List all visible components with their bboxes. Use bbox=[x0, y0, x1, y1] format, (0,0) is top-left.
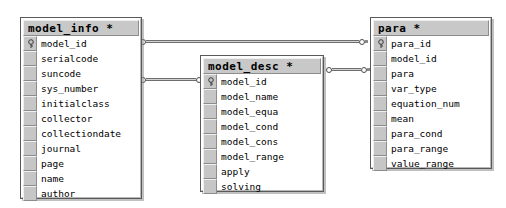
field-row[interactable]: model_cond bbox=[203, 119, 321, 134]
field-label: para_id bbox=[387, 36, 489, 51]
field-label: model_equa bbox=[217, 104, 321, 119]
table-frame-inner: para * para_id model_id bbox=[371, 18, 491, 168]
field-gutter bbox=[23, 51, 37, 66]
field-label: var_type bbox=[387, 81, 489, 96]
field-row[interactable]: sys_number bbox=[23, 81, 139, 96]
field-row[interactable]: collectiondate bbox=[23, 126, 139, 141]
key-icon-glyph bbox=[377, 39, 385, 49]
field-list-model-desc: model_id model_name model_equa model_con… bbox=[203, 74, 321, 194]
field-list-para: para_id model_id para var_type equation_… bbox=[373, 36, 489, 171]
table-title-model-info: model_info * bbox=[23, 20, 139, 36]
field-row[interactable]: model_name bbox=[203, 89, 321, 104]
relationship-line-model-info-model-desc[interactable] bbox=[140, 76, 202, 83]
table-frame-inner: model_info * model_id serialcode bbox=[21, 18, 141, 198]
relationship-line-model-desc-para[interactable] bbox=[326, 66, 370, 73]
field-row[interactable]: model_id bbox=[373, 51, 489, 66]
field-gutter bbox=[23, 141, 37, 156]
field-gutter bbox=[373, 126, 387, 141]
field-label: author bbox=[37, 186, 139, 201]
field-label: collector bbox=[37, 111, 139, 126]
relationship-line-model-info-para[interactable] bbox=[140, 38, 368, 45]
field-row[interactable]: suncode bbox=[23, 66, 139, 81]
field-label: collectiondate bbox=[37, 126, 139, 141]
field-row[interactable]: journal bbox=[23, 141, 139, 156]
field-gutter bbox=[203, 89, 217, 104]
field-label: initialclass bbox=[37, 96, 139, 111]
field-label: mean bbox=[387, 111, 489, 126]
field-gutter bbox=[203, 164, 217, 179]
er-diagram-canvas: model_info * model_id serialcode bbox=[0, 0, 506, 208]
key-icon-glyph bbox=[207, 77, 215, 87]
field-row[interactable]: initialclass bbox=[23, 96, 139, 111]
field-gutter bbox=[203, 149, 217, 164]
field-row[interactable]: equation_num bbox=[373, 96, 489, 111]
field-label: model_cons bbox=[217, 134, 321, 149]
field-row[interactable]: para bbox=[373, 66, 489, 81]
field-gutter bbox=[203, 134, 217, 149]
table-model-desc[interactable]: model_desc * model_id model_name bbox=[200, 55, 324, 192]
field-row[interactable]: collector bbox=[23, 111, 139, 126]
field-row[interactable]: apply bbox=[203, 164, 321, 179]
table-frame-inner: model_desc * model_id model_name bbox=[201, 56, 323, 191]
field-row[interactable]: model_id bbox=[23, 36, 139, 51]
field-label: para_range bbox=[387, 141, 489, 156]
field-gutter bbox=[23, 96, 37, 111]
field-row[interactable]: model_range bbox=[203, 149, 321, 164]
field-label: para_cond bbox=[387, 126, 489, 141]
field-row[interactable]: model_cons bbox=[203, 134, 321, 149]
primary-key-icon bbox=[373, 36, 387, 51]
field-label: model_id bbox=[217, 74, 321, 89]
field-gutter bbox=[23, 111, 37, 126]
field-gutter bbox=[23, 186, 37, 201]
primary-key-icon bbox=[23, 36, 37, 51]
field-label: page bbox=[37, 156, 139, 171]
table-para[interactable]: para * para_id model_id bbox=[370, 17, 492, 169]
field-gutter bbox=[23, 126, 37, 141]
field-gutter bbox=[373, 111, 387, 126]
field-label: suncode bbox=[37, 66, 139, 81]
field-label: sys_number bbox=[37, 81, 139, 96]
field-gutter bbox=[23, 66, 37, 81]
field-row[interactable]: page bbox=[23, 156, 139, 171]
field-row[interactable]: var_type bbox=[373, 81, 489, 96]
field-gutter bbox=[203, 119, 217, 134]
field-label: model_range bbox=[217, 149, 321, 164]
field-gutter bbox=[373, 141, 387, 156]
field-label: model_id bbox=[37, 36, 139, 51]
field-label: model_cond bbox=[217, 119, 321, 134]
table-title-model-desc: model_desc * bbox=[203, 58, 321, 74]
field-gutter bbox=[23, 171, 37, 186]
field-label: serialcode bbox=[37, 51, 139, 66]
field-gutter bbox=[373, 156, 387, 171]
field-row[interactable]: solving bbox=[203, 179, 321, 194]
relationship-line-segment bbox=[146, 40, 359, 43]
field-row[interactable]: value_range bbox=[373, 156, 489, 171]
field-label: para bbox=[387, 66, 489, 81]
field-row[interactable]: para_range bbox=[373, 141, 489, 156]
field-row[interactable]: para_id bbox=[373, 36, 489, 51]
field-gutter bbox=[23, 156, 37, 171]
field-label: name bbox=[37, 171, 139, 186]
field-row[interactable]: mean bbox=[373, 111, 489, 126]
field-gutter bbox=[203, 179, 217, 194]
field-list-model-info: model_id serialcode suncode sys_number i… bbox=[23, 36, 139, 201]
field-row[interactable]: serialcode bbox=[23, 51, 139, 66]
field-row[interactable]: author bbox=[23, 186, 139, 201]
primary-key-icon bbox=[203, 74, 217, 89]
field-gutter bbox=[373, 96, 387, 111]
field-label: model_name bbox=[217, 89, 321, 104]
field-label: solving bbox=[217, 179, 321, 194]
table-model-info[interactable]: model_info * model_id serialcode bbox=[20, 17, 142, 199]
relationship-line-segment bbox=[146, 78, 196, 81]
field-label: equation_num bbox=[387, 96, 489, 111]
field-row[interactable]: para_cond bbox=[373, 126, 489, 141]
field-label: value_range bbox=[387, 156, 489, 171]
field-row[interactable]: name bbox=[23, 171, 139, 186]
field-label: model_id bbox=[387, 51, 489, 66]
field-gutter bbox=[373, 51, 387, 66]
field-label: apply bbox=[217, 164, 321, 179]
field-gutter bbox=[23, 81, 37, 96]
field-gutter bbox=[373, 81, 387, 96]
field-row[interactable]: model_equa bbox=[203, 104, 321, 119]
field-row[interactable]: model_id bbox=[203, 74, 321, 89]
